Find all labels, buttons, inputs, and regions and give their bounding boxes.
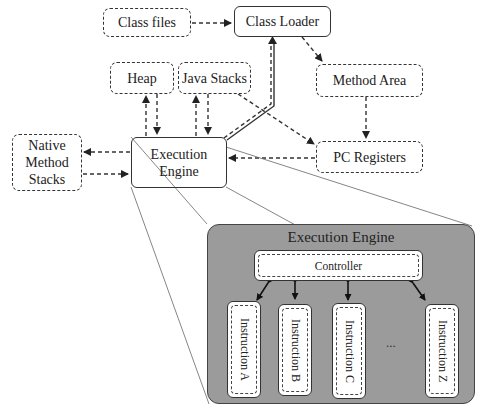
instruction-a-label: Instruction A xyxy=(237,318,252,381)
instruction-b-node: Instruction B xyxy=(278,304,312,396)
ellipsis-label: ... xyxy=(386,335,396,351)
instruction-c-node: Instruction C xyxy=(332,303,366,399)
instruction-c-label: Instruction C xyxy=(342,320,357,383)
controller-node: Controller xyxy=(254,250,423,281)
instruction-z-node: Instruction Z xyxy=(425,304,459,398)
instruction-b-label: Instruction B xyxy=(288,319,303,382)
instruction-z-label: Instruction Z xyxy=(435,320,450,382)
controller-label: Controller xyxy=(315,260,362,272)
instruction-a-node: Instruction A xyxy=(227,301,261,398)
